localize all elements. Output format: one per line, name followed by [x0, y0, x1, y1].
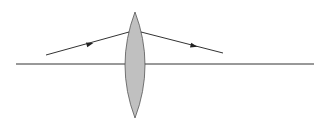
refracted-ray-arrow-icon [190, 43, 197, 48]
lens-ray-diagram [0, 0, 330, 126]
incident-ray-arrow-icon [86, 43, 93, 48]
refracted-ray [141, 32, 223, 53]
convex-lens [125, 12, 145, 118]
